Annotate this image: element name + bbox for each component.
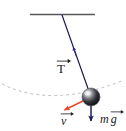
bob-specular-highlight bbox=[84, 91, 90, 95]
weight-gravity-symbol: g bbox=[111, 113, 117, 125]
velocity-label: v bbox=[61, 115, 66, 127]
weight-label: m g bbox=[100, 113, 117, 125]
weight-gravity-symbol-text: g bbox=[111, 112, 117, 126]
pendulum-free-body-diagram: T v m g bbox=[0, 0, 126, 131]
tension-symbol: T bbox=[57, 62, 65, 75]
velocity-symbol: v bbox=[61, 115, 66, 127]
tension-symbol-text: T bbox=[57, 61, 65, 76]
velocity-symbol-text: v bbox=[61, 114, 66, 128]
pendulum-bob bbox=[82, 88, 100, 106]
tension-label: T bbox=[57, 62, 65, 75]
tension-arrowhead bbox=[73, 47, 76, 56]
weight-mass-symbol: m bbox=[100, 112, 109, 126]
swing-arc bbox=[2, 80, 124, 96]
